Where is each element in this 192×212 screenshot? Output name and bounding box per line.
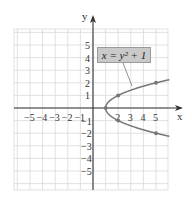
y-axis-label: y xyxy=(82,10,88,22)
equation-label: x = y² + 1 xyxy=(97,47,151,63)
y-tick-label: 5 xyxy=(85,40,90,51)
x-tick-label: −5 xyxy=(24,112,35,123)
y-tick-label: 4 xyxy=(85,53,90,64)
y-tick-label: −5 xyxy=(81,166,92,177)
data-point xyxy=(116,93,120,97)
chart: x y −5−4−3−2−12345 54321−1−2−3−4−5 xyxy=(0,0,192,212)
data-point xyxy=(154,131,158,135)
y-tick-label: −1 xyxy=(81,116,92,127)
y-tick-label: −2 xyxy=(81,128,92,139)
y-tick-label: −3 xyxy=(81,141,92,152)
y-tick-label: 1 xyxy=(85,90,90,101)
y-tick-label: −4 xyxy=(81,153,92,164)
data-point xyxy=(154,81,158,85)
y-tick-label: 2 xyxy=(85,78,90,89)
x-tick-label: 5 xyxy=(153,112,158,123)
axes xyxy=(14,15,183,190)
data-point xyxy=(116,119,120,123)
data-point xyxy=(104,106,108,110)
x-tick-label: 3 xyxy=(128,112,133,123)
x-axis-label: x xyxy=(177,110,183,122)
x-tick-label: 4 xyxy=(140,112,145,123)
x-tick-label: −2 xyxy=(62,112,73,123)
x-tick-label: −4 xyxy=(37,112,48,123)
x-tick-label: −3 xyxy=(49,112,60,123)
y-tick-label: 3 xyxy=(85,65,90,76)
